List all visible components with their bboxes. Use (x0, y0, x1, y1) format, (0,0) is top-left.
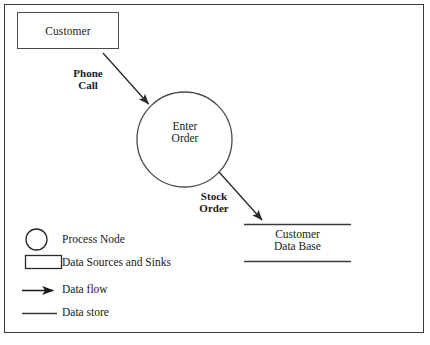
legend-item-data-flow: Data flow (62, 283, 108, 295)
diagram-canvas: Customer Enter Order Phone Call Stock Or… (0, 0, 430, 345)
process-label-line-2: Order (137, 132, 233, 144)
process-label-line-1: Enter (137, 120, 233, 132)
flow-phone-line-2: Call (60, 79, 116, 91)
data-store-customer-data-base-label: Customer Data Base (244, 228, 351, 252)
legend-item-data-store: Data store (62, 306, 109, 318)
external-entity-customer-label: Customer (45, 25, 91, 37)
flow-stock-line-1: Stock (185, 190, 243, 202)
external-entity-customer: Customer (17, 12, 119, 49)
flow-phone-line-1: Phone (60, 67, 116, 79)
data-flow-label-phone-call: Phone Call (60, 67, 116, 91)
store-label-line-2: Data Base (244, 240, 351, 252)
data-flow-label-stock-order: Stock Order (185, 190, 243, 214)
legend-item-process-node: Process Node (62, 233, 125, 245)
store-label-line-1: Customer (244, 228, 351, 240)
legend-item-data-sources-and-sinks: Data Sources and Sinks (62, 256, 171, 268)
process-node-enter-order-label: Enter Order (137, 120, 233, 144)
flow-stock-line-2: Order (185, 202, 243, 214)
